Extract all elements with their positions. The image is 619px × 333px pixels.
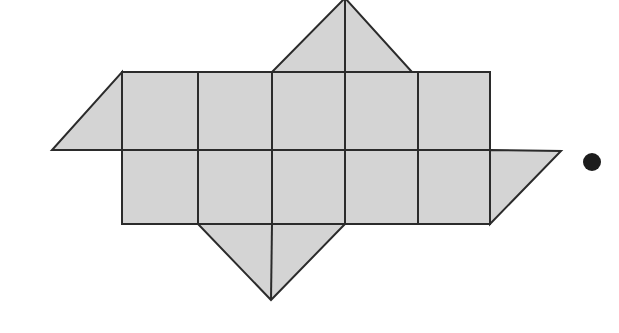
square-r1c2 bbox=[198, 72, 272, 150]
triangle-top bbox=[272, 0, 412, 72]
net-diagram bbox=[0, 0, 619, 333]
squares-group bbox=[122, 72, 490, 224]
square-r2c1 bbox=[122, 150, 198, 224]
triangle-right bbox=[490, 150, 561, 224]
square-r2c3 bbox=[272, 150, 345, 224]
square-r2c2 bbox=[198, 150, 272, 224]
square-r1c5 bbox=[418, 72, 490, 150]
square-r2c4 bbox=[345, 150, 418, 224]
square-r1c4 bbox=[345, 72, 418, 150]
square-r1c3 bbox=[272, 72, 345, 150]
marker-dot bbox=[583, 153, 601, 171]
figure-canvas bbox=[0, 0, 619, 333]
square-r2c5 bbox=[418, 150, 490, 224]
triangle-left bbox=[52, 72, 122, 150]
square-r1c1 bbox=[122, 72, 198, 150]
fold-line-bottom-triangle bbox=[271, 224, 272, 300]
